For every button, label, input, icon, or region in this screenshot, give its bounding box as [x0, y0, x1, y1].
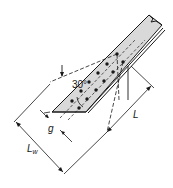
whitmore-diagram: 30° L g Lw	[0, 0, 173, 188]
dimension-g	[40, 110, 72, 142]
bolt	[94, 88, 97, 91]
bolt	[96, 71, 99, 74]
bolt	[87, 80, 90, 83]
gage-label: g	[48, 123, 54, 134]
whitmore-width-label: Lw	[27, 143, 39, 155]
bolt	[102, 79, 105, 82]
bolt	[105, 62, 108, 65]
arrowhead-icon	[60, 72, 64, 77]
bolt	[85, 97, 88, 100]
bolt	[77, 106, 80, 109]
bolt	[70, 99, 73, 102]
bolt	[111, 70, 114, 73]
whitmore-width-sub: w	[33, 148, 39, 155]
length-label: L	[133, 109, 139, 120]
angle-label: 30°	[72, 79, 87, 90]
